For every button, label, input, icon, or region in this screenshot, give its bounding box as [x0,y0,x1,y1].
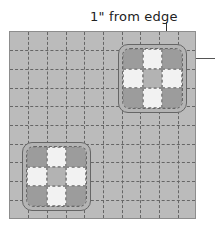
from-edge-label: 1" from edge [90,9,178,25]
block-cell [47,186,67,206]
block-cell [27,186,47,206]
block-cell [123,88,143,108]
block-cell [143,49,163,69]
block-cell [27,147,47,167]
block-cell [123,69,143,89]
block-cell [66,147,86,167]
block-cell [162,69,182,89]
block-cell [47,167,67,187]
block-cell [123,49,143,69]
block-cell [143,69,163,89]
quilt-diagram [9,31,196,219]
block-cell [143,88,163,108]
bottom-left-block [22,142,91,211]
top-right-block [118,44,187,113]
block-cell [27,167,47,187]
grid-line [10,125,195,126]
block-cell [162,88,182,108]
block-cell [66,186,86,206]
block-cell [162,49,182,69]
block-cell [66,167,86,187]
block-cell [47,147,67,167]
